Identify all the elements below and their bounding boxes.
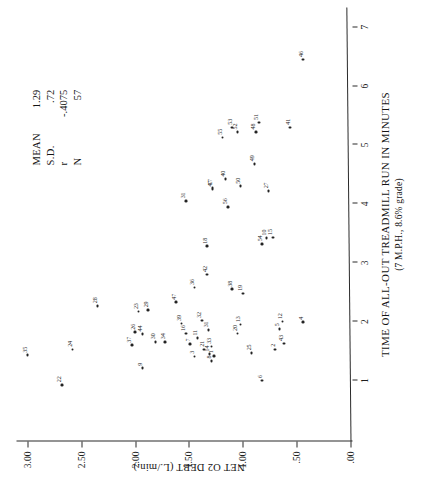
statistics-row: N57: [71, 89, 85, 165]
scatter-point-marker: [130, 343, 133, 346]
scatter-point-marker: [230, 288, 233, 291]
scatter-point-marker: [260, 379, 263, 382]
scatter-point-label: 51: [252, 114, 258, 120]
x-axis-title: TIME OF ALL-OUT TREADMILL RUN IN MINUTES: [378, 9, 390, 439]
scatter-point-marker: [224, 177, 227, 180]
scatter-point-marker: [133, 331, 136, 334]
scatter-point-marker: [180, 322, 183, 325]
scatter-point-marker: [273, 348, 276, 351]
rotated-chart-stage: 1234567 .00.501.001.502.002.503.00 35222…: [0, 0, 437, 501]
scatter-point-label: 6: [256, 375, 262, 378]
scatter-point-label: 49: [248, 155, 254, 161]
y-tick: [242, 441, 243, 447]
scatter-point-label: 38: [226, 280, 232, 286]
y-tick: [27, 441, 28, 447]
y-axis-title: NET O2 DEBT (L./min.): [89, 462, 289, 473]
scatter-point-marker: [60, 383, 63, 386]
scatter-point-marker: [210, 345, 213, 348]
scatter-point-label: 31: [179, 192, 185, 198]
scatter-point-marker: [188, 342, 191, 345]
scatter-point-marker: [288, 126, 291, 129]
x-tick: [352, 379, 357, 380]
x-tick: [352, 85, 357, 86]
y-axis-line: [16, 440, 352, 441]
y-tick: [296, 441, 297, 447]
scatter-point-marker: [141, 332, 144, 335]
scatter-point-label: 5: [273, 323, 279, 326]
x-tick-label: 3: [359, 250, 369, 274]
statistics-key: S.D.: [44, 116, 58, 165]
scatter-point-label: 17: [206, 179, 212, 185]
x-tick-label: 1: [359, 368, 369, 392]
scatter-point-marker: [196, 336, 199, 339]
scatter-point-marker: [146, 308, 149, 311]
scatter-point-marker: [260, 242, 263, 245]
scatter-point-marker: [236, 332, 239, 335]
scatter-point-marker: [141, 366, 144, 369]
scatter-point-label: 34: [159, 333, 165, 339]
scatter-point-marker: [137, 310, 140, 313]
statistics-key: MEAN: [30, 116, 44, 165]
scatter-point-marker: [212, 354, 215, 357]
scatter-point-marker: [301, 58, 304, 61]
scatter-point-label: 10: [260, 229, 266, 235]
scatter-point-label: 36: [188, 279, 194, 285]
scatter-point-label: 25: [245, 344, 251, 350]
scatter-point-marker: [257, 121, 260, 124]
scatter-point-label: 37: [125, 336, 131, 342]
scatter-point-marker: [193, 355, 196, 358]
x-tick-label: 4: [359, 191, 369, 215]
statistics-row: S.D..72: [44, 89, 58, 165]
scatter-point-marker: [210, 359, 213, 362]
scatter-point-marker: [254, 130, 257, 133]
scatter-point-label: 26: [129, 323, 135, 329]
x-tick-label: 7: [359, 15, 369, 39]
statistics-legend: MEAN1.29S.D..72r-.4075N57: [30, 89, 84, 165]
y-tick-label: .00: [345, 451, 355, 491]
scatter-point-label: 32: [195, 312, 201, 318]
scatter-point-label: 19: [236, 285, 242, 291]
scatter-point-label: 8: [205, 355, 211, 358]
scatter-point-label: 44: [136, 325, 142, 331]
scatter-point-label: 33: [205, 338, 211, 344]
scatter-point-marker: [174, 300, 177, 303]
figure-root: 1234567 .00.501.001.502.002.503.00 35222…: [0, 0, 437, 501]
scatter-point-label: 35: [21, 346, 27, 352]
scatter-point-marker: [253, 162, 256, 165]
scatter-point-label: 52: [231, 123, 237, 129]
statistics-table: MEAN1.29S.D..72r-.4075N57: [30, 89, 84, 165]
x-tick-label: 5: [359, 132, 369, 156]
scatter-point-label: 15: [266, 229, 272, 235]
scatter-point-marker: [211, 186, 214, 189]
scatter-point-marker: [236, 130, 239, 133]
scatter-point-label: 41: [284, 118, 290, 124]
x-tick-label: 2: [359, 309, 369, 333]
x-tick: [352, 202, 357, 203]
scatter-point-marker: [250, 351, 253, 354]
scatter-point-marker: [184, 332, 187, 335]
scatter-point-marker: [241, 292, 244, 295]
y-tick: [81, 441, 82, 447]
scatter-point-marker: [278, 327, 281, 330]
scatter-point-label: 1: [207, 350, 213, 353]
scatter-point-label: 48: [249, 123, 255, 129]
scatter-point-label: 56: [221, 198, 227, 204]
statistics-key: N: [71, 116, 85, 165]
scatter-point-label: 18: [201, 237, 207, 243]
scatter-point-marker: [154, 340, 157, 343]
scatter-point-label: 12: [276, 313, 282, 319]
y-tick: [350, 441, 351, 447]
scatter-point-label: 24: [66, 341, 72, 347]
statistics-value: -.4075: [57, 89, 71, 116]
scatter-points-layer: 3522242837264492329303447391673363221143…: [14, 9, 351, 439]
scatter-point-marker: [239, 323, 242, 326]
x-axis-subtitle: (7 M.P.H., 8.6% grade): [393, 9, 403, 439]
scatter-point-label: 42: [201, 266, 207, 272]
x-tick: [352, 143, 357, 144]
scatter-point-marker: [267, 189, 270, 192]
scatter-point-marker: [205, 273, 208, 276]
scatter-point-label: 30: [149, 333, 155, 339]
scatter-point-label: 22: [55, 376, 61, 382]
scatter-point-label: 7: [184, 338, 190, 341]
scatter-point-marker: [265, 236, 268, 239]
